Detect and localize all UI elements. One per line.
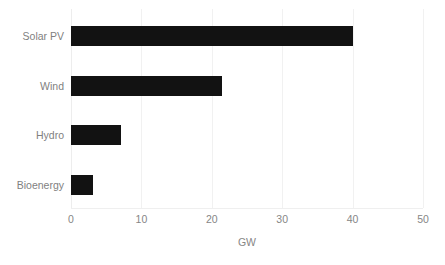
bar-bioenergy[interactable] (71, 175, 93, 195)
bar-row (71, 125, 423, 145)
y-axis-label-bioenergy: Bioenergy (0, 179, 64, 191)
bar-hydro[interactable] (71, 125, 121, 145)
x-tick-label-40: 40 (333, 213, 373, 226)
y-axis-label-wind: Wind (0, 80, 64, 92)
bar-solar-pv[interactable] (71, 26, 353, 46)
plot-area (71, 9, 423, 208)
bar-row (71, 175, 423, 195)
x-tick-label-20: 20 (192, 213, 232, 226)
x-axis-title: GW (71, 236, 423, 249)
bar-chart: Solar PVWindHydroBioenergy 01020304050 G… (0, 0, 445, 265)
x-tick-label-10: 10 (121, 213, 161, 226)
bar-wind[interactable] (71, 76, 222, 96)
y-axis-label-hydro: Hydro (0, 129, 64, 141)
y-axis-label-solar-pv: Solar PV (0, 30, 64, 42)
x-tick-label-50: 50 (403, 213, 443, 226)
x-tick-label-30: 30 (262, 213, 302, 226)
x-axis-line (71, 208, 423, 209)
x-tick-label-0: 0 (51, 213, 91, 226)
gridline-50 (423, 9, 424, 208)
bar-row (71, 76, 423, 96)
bar-row (71, 26, 423, 46)
